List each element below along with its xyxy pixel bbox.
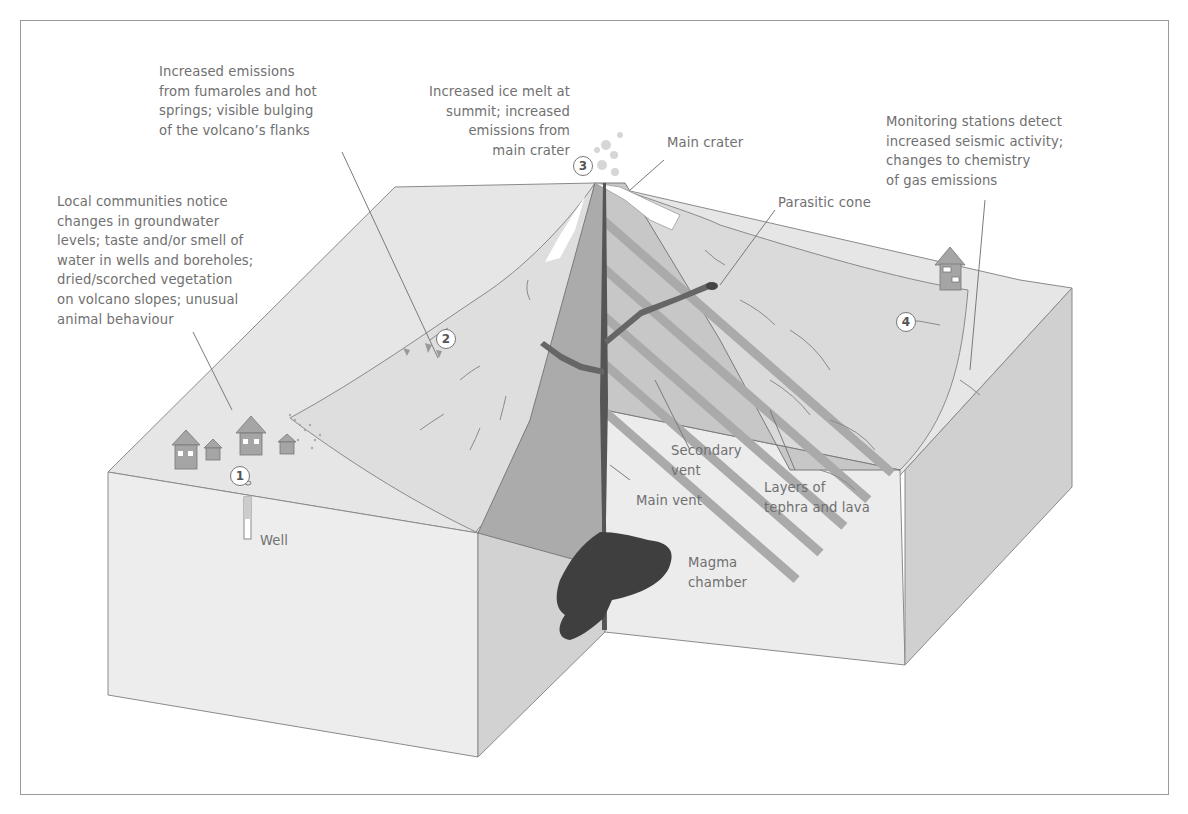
marker-3: 3 <box>573 156 593 176</box>
label-well: Well <box>260 531 288 551</box>
label-layers: Layers of tephra and lava <box>764 478 870 517</box>
marker-1: 1 <box>230 466 250 486</box>
parasitic-cone-shape <box>706 282 718 290</box>
callout-4-text: Monitoring stations detect increased sei… <box>886 112 1063 190</box>
callout-3-text: Increased ice melt at summit; increased … <box>405 82 570 160</box>
label-main-vent: Main vent <box>636 491 702 511</box>
callout-2-text: Increased emissions from fumaroles and h… <box>159 62 317 140</box>
label-secondary-vent: Secondary vent <box>671 441 742 480</box>
marker-4: 4 <box>896 312 916 332</box>
label-main-crater: Main crater <box>667 133 743 153</box>
callout-1-text: Local communities notice changes in grou… <box>57 192 253 329</box>
marker-2: 2 <box>436 329 456 349</box>
label-parasitic-cone: Parasitic cone <box>778 193 871 213</box>
smoke <box>594 132 623 176</box>
label-magma-chamber: Magma chamber <box>688 553 747 592</box>
